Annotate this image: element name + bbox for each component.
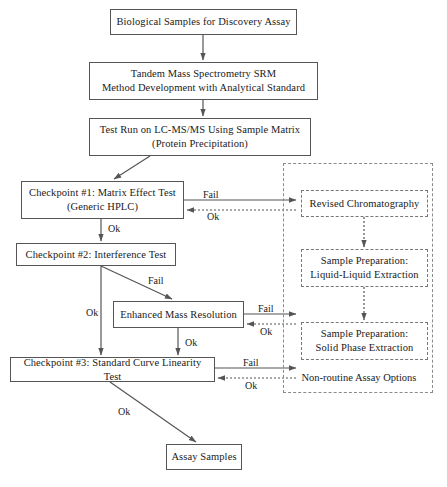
node-enhanced-mass-resolution-label: Enhanced Mass Resolution [120, 308, 237, 322]
node-sample-preparation-solid-phase-extraction[interactable]: Sample Preparation: Solid Phase Extracti… [301, 322, 428, 360]
node-checkpoint-3-label: Checkpoint #3: Standard Curve Linearity … [15, 356, 210, 384]
node-checkpoint-2-interference-test[interactable]: Checkpoint #2: Interference Test [16, 243, 176, 266]
node-sample-prep-lle-label-line2: Liquid-Liquid Extraction [310, 268, 418, 282]
node-test-run-lcmsms-label-line2: (Protein Precipitation) [152, 137, 248, 151]
node-test-run-lcmsms[interactable]: Test Run on LC-MS/MS Using Sample Matrix… [89, 118, 311, 156]
node-sample-prep-spe-label-line1: Sample Preparation: [321, 327, 408, 341]
node-sample-prep-lle-label-line1: Sample Preparation: [321, 254, 408, 268]
edge-label-cp3-ok-return: Ok [245, 381, 257, 391]
flowchart-canvas: Non-routine Assay Options Biological Sam… [0, 0, 447, 487]
node-enhanced-mass-resolution[interactable]: Enhanced Mass Resolution [113, 301, 244, 328]
node-checkpoint-1-label-line2: (Generic HPLC) [67, 200, 138, 214]
arrow-testrun-to-checkpoint1 [114, 156, 150, 179]
edge-label-cp1-ok-down: Ok [108, 224, 120, 234]
edge-label-cp2-ok-down: Ok [86, 308, 98, 318]
node-checkpoint-3-standard-curve-linearity-test[interactable]: Checkpoint #3: Standard Curve Linearity … [10, 357, 215, 382]
edge-label-cp1-ok-return: Ok [207, 212, 219, 222]
node-tandem-mass-spectrometry-label-line1: Tandem Mass Spectrometry SRM [131, 67, 276, 81]
edge-label-emr-fail: Fail [258, 304, 274, 314]
node-checkpoint-1-matrix-effect-test[interactable]: Checkpoint #1: Matrix Effect Test (Gener… [21, 181, 184, 219]
node-assay-samples-label: Assay Samples [171, 450, 236, 464]
edge-label-cp1-fail: Fail [203, 190, 219, 200]
edge-label-emr-ok-down: Ok [185, 338, 197, 348]
node-tandem-mass-spectrometry[interactable]: Tandem Mass Spectrometry SRM Method Deve… [89, 62, 318, 100]
node-checkpoint-1-label-line1: Checkpoint #1: Matrix Effect Test [29, 186, 176, 200]
edge-label-cp2-fail: Fail [148, 276, 164, 286]
node-sample-preparation-liquid-liquid-extraction[interactable]: Sample Preparation: Liquid-Liquid Extrac… [301, 249, 428, 287]
node-revised-chromatography[interactable]: Revised Chromatography [301, 190, 428, 217]
node-revised-chromatography-label: Revised Chromatography [310, 197, 420, 211]
node-assay-samples[interactable]: Assay Samples [166, 444, 242, 470]
node-biological-samples-label: Biological Samples for Discovery Assay [116, 15, 290, 29]
node-biological-samples[interactable]: Biological Samples for Discovery Assay [110, 9, 297, 35]
edge-label-cp3-ok-final: Ok [118, 407, 130, 417]
edge-label-emr-ok-return: Ok [260, 327, 272, 337]
non-routine-assay-options-caption: Non-routine Assay Options [289, 371, 429, 385]
node-sample-prep-spe-label-line2: Solid Phase Extraction [316, 341, 414, 355]
edge-label-cp3-fail: Fail [243, 358, 259, 368]
node-checkpoint-2-label: Checkpoint #2: Interference Test [26, 248, 167, 262]
node-tandem-mass-spectrometry-label-line2: Method Development with Analytical Stand… [102, 81, 305, 95]
node-test-run-lcmsms-label-line1: Test Run on LC-MS/MS Using Sample Matrix [100, 123, 300, 137]
